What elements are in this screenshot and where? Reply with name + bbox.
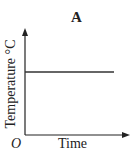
origin-label: O xyxy=(11,136,21,152)
x-axis-label: Time xyxy=(58,136,87,152)
y-axis-label: Temperature °C xyxy=(3,29,19,139)
y-axis-arrow-icon xyxy=(22,28,28,36)
x-axis-arrow-icon xyxy=(122,132,130,138)
